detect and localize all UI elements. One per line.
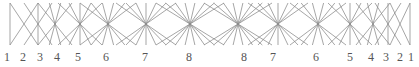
bundle-labels-row: 1234567887654321	[0, 48, 419, 67]
line-bundle-3	[375, 3, 401, 45]
bundle-label: 2	[397, 50, 403, 65]
bundle-label: 5	[347, 50, 353, 65]
line-bundle-2	[390, 3, 410, 45]
line-bundle-5	[58, 3, 102, 45]
bundle-label: 4	[54, 50, 60, 65]
bundle-label: 3	[37, 50, 43, 65]
line-bundle-4	[38, 3, 72, 45]
line-bundle-5	[328, 3, 372, 45]
line-bundle-3	[24, 3, 52, 45]
bundle-label: 2	[20, 50, 26, 65]
bundle-label: 4	[368, 50, 374, 65]
bundle-label: 8	[241, 50, 247, 65]
line-bundle-diagram	[0, 0, 419, 48]
bundle-label: 3	[383, 50, 389, 65]
bundle-label: 7	[142, 50, 148, 65]
line-bundle-6	[80, 3, 136, 45]
bundle-label: 1	[4, 50, 10, 65]
line-bundle-8	[204, 3, 272, 45]
line-bundle-2	[10, 3, 38, 45]
line-bundle-6	[290, 3, 346, 45]
line-bundle-4	[356, 3, 390, 45]
bundle-label: 8	[186, 50, 192, 65]
bundle-label: 7	[270, 50, 276, 65]
bundle-label: 6	[313, 50, 319, 65]
bundle-label: 5	[75, 50, 81, 65]
bundle-label: 6	[103, 50, 109, 65]
bundle-label: 1	[408, 50, 414, 65]
